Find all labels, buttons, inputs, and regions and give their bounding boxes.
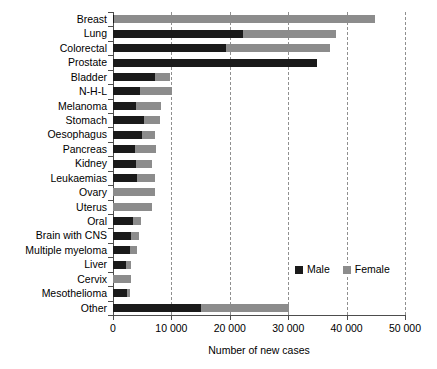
- x-axis-line: [113, 315, 405, 316]
- bar-row: [113, 30, 405, 38]
- legend-label: Female: [355, 264, 390, 275]
- bar-segment-female: [113, 275, 131, 283]
- bar-segment-female: [113, 203, 152, 211]
- y-tick: [108, 171, 113, 172]
- bar-segment-male: [113, 59, 317, 67]
- x-tick: [288, 315, 289, 320]
- bar-segment-female: [130, 246, 137, 254]
- bar-row: [113, 59, 405, 67]
- bar-row: [113, 246, 405, 254]
- y-tick: [108, 70, 113, 71]
- x-tick: [171, 315, 172, 320]
- y-axis-tick-label: Bladder: [0, 72, 107, 83]
- bar-row: [113, 131, 405, 139]
- bar-segment-female: [126, 261, 131, 269]
- bar-segment-female: [127, 289, 130, 297]
- bar-segment-male: [113, 30, 243, 38]
- y-axis-tick-label: Ovary: [0, 187, 107, 198]
- y-tick: [108, 26, 113, 27]
- y-tick: [108, 228, 113, 229]
- bar-segment-female: [142, 131, 155, 139]
- bar-segment-female: [201, 304, 290, 312]
- bar-segment-female: [155, 73, 170, 81]
- bar-segment-male: [113, 131, 142, 139]
- bar-segment-female: [140, 87, 172, 95]
- bar-row: [113, 44, 405, 52]
- y-axis-tick-label: Other: [0, 303, 107, 314]
- y-axis-tick-label: Melanoma: [0, 101, 107, 112]
- bar-chart: BreastLungColorectalProstateBladderN-H-L…: [0, 0, 437, 369]
- bar-segment-female: [137, 174, 155, 182]
- bar-segment-female: [226, 44, 330, 52]
- y-tick: [108, 113, 113, 114]
- bar-segment-female: [133, 217, 141, 225]
- bar-row: [113, 217, 405, 225]
- bar-row: [113, 188, 405, 196]
- bar-segment-male: [113, 217, 133, 225]
- chart-legend: MaleFemale: [293, 263, 392, 276]
- bar-row: [113, 289, 405, 297]
- gridline: [405, 12, 406, 315]
- x-tick-label: 0: [110, 323, 116, 334]
- x-tick: [405, 315, 406, 320]
- y-axis-tick-label: Leukaemias: [0, 173, 107, 184]
- y-axis-tick-label: Pancreas: [0, 144, 107, 155]
- bar-segment-female: [136, 102, 161, 110]
- legend-label: Male: [307, 264, 330, 275]
- y-axis-tick-label: Uterus: [0, 202, 107, 213]
- y-axis-tick-label: Stomach: [0, 115, 107, 126]
- bar-segment-male: [113, 304, 201, 312]
- bar-row: [113, 116, 405, 124]
- bar-segment-male: [113, 116, 144, 124]
- y-tick: [108, 243, 113, 244]
- bar-segment-male: [113, 232, 131, 240]
- y-tick: [108, 142, 113, 143]
- bar-segment-male: [113, 102, 136, 110]
- x-tick-label: 40 000: [331, 323, 363, 334]
- y-axis-tick-label: Oral: [0, 216, 107, 227]
- bar-row: [113, 203, 405, 211]
- y-tick: [108, 41, 113, 42]
- bar-row: [113, 275, 405, 283]
- legend-item-female: Female: [343, 264, 390, 275]
- y-axis-tick-label: Brain with CNS: [0, 230, 107, 241]
- y-tick: [108, 286, 113, 287]
- x-tick-label: 30 000: [272, 323, 304, 334]
- y-tick: [108, 12, 113, 13]
- bar-row: [113, 102, 405, 110]
- y-axis-tick-label: Liver: [0, 259, 107, 270]
- x-tick-label: 50 000: [389, 323, 421, 334]
- y-axis-tick-label: Breast: [0, 14, 107, 25]
- y-tick: [108, 200, 113, 201]
- y-axis-tick-label: Prostate: [0, 57, 107, 68]
- x-axis-title: Number of new cases: [113, 344, 405, 356]
- y-tick: [108, 315, 113, 316]
- bar-row: [113, 145, 405, 153]
- y-tick: [108, 257, 113, 258]
- bar-row: [113, 304, 405, 312]
- bar-segment-male: [113, 73, 155, 81]
- y-axis-tick-label: Cervix: [0, 274, 107, 285]
- y-axis-tick-label: Mesothelioma: [0, 288, 107, 299]
- bar-row: [113, 160, 405, 168]
- bar-segment-female: [113, 188, 155, 196]
- bar-segment-female: [135, 145, 156, 153]
- x-tick-label: 20 000: [214, 323, 246, 334]
- bar-segment-female: [243, 30, 336, 38]
- y-tick: [108, 55, 113, 56]
- x-tick: [347, 315, 348, 320]
- bar-segment-female: [136, 160, 152, 168]
- y-tick: [108, 301, 113, 302]
- y-tick: [108, 127, 113, 128]
- y-axis-tick-label: Colorectal: [0, 43, 107, 54]
- y-axis-tick-label: Lung: [0, 28, 107, 39]
- bar-segment-male: [113, 261, 126, 269]
- y-tick: [108, 99, 113, 100]
- legend-swatch-female-icon: [343, 266, 351, 274]
- y-axis-labels: BreastLungColorectalProstateBladderN-H-L…: [0, 12, 107, 315]
- bar-segment-female: [131, 232, 139, 240]
- y-axis-tick-label: Kidney: [0, 158, 107, 169]
- bar-row: [113, 174, 405, 182]
- bar-row: [113, 73, 405, 81]
- y-tick: [108, 84, 113, 85]
